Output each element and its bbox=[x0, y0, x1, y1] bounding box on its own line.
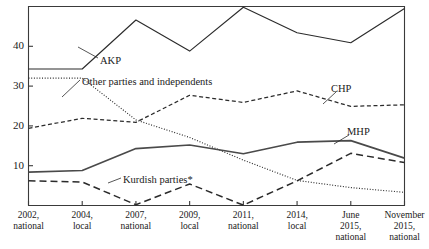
series-line-akp bbox=[29, 7, 405, 69]
y-axis-ticks bbox=[29, 46, 34, 165]
y-tick-label: 20 bbox=[2, 119, 24, 131]
series-line-chp bbox=[29, 91, 405, 128]
x-tick-label-line: national bbox=[367, 232, 429, 243]
series-label-mhp: MHP bbox=[347, 126, 370, 137]
x-tick-label-line: 2015, bbox=[367, 221, 429, 232]
leader-line bbox=[62, 80, 80, 97]
leader-line bbox=[78, 47, 98, 58]
x-tick-label: November2015,national bbox=[367, 210, 429, 243]
annotation-leader-lines bbox=[62, 47, 349, 183]
x-tick-label-line: November bbox=[367, 210, 429, 221]
y-tick-label: 10 bbox=[2, 159, 24, 171]
chart-series-lines bbox=[29, 7, 405, 205]
series-label-kurdish-parties: Kurdish parties* bbox=[123, 174, 193, 185]
x-axis-ticks bbox=[29, 201, 405, 206]
series-label-chp: CHP bbox=[331, 83, 351, 94]
series-line-mhp bbox=[29, 141, 405, 172]
leader-line bbox=[108, 178, 121, 183]
y-tick-label: 30 bbox=[2, 79, 24, 91]
series-label-akp: AKP bbox=[100, 55, 121, 66]
y-tick-label: 40 bbox=[2, 39, 24, 51]
series-label-other-parties-and-independents: Other parties and independents bbox=[82, 76, 212, 87]
series-line-kurdish-parties bbox=[29, 153, 405, 205]
